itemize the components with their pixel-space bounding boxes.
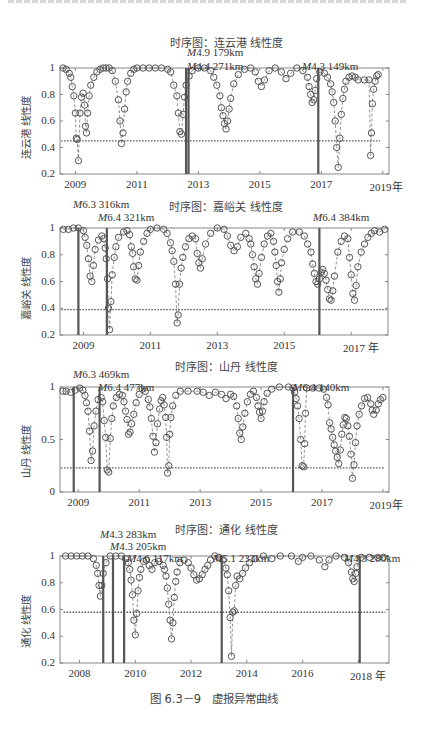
y-tick-label: 0.4 <box>31 629 55 641</box>
x-tick-label: 2008 <box>69 667 91 679</box>
x-tick-label: 2016 <box>292 667 314 679</box>
earthquake-label: M4.3 283km <box>100 528 156 540</box>
earthquake-label: M4.3 280km <box>344 552 400 564</box>
y-tick-label: 0.8 <box>31 576 55 588</box>
plot-area <box>0 0 428 731</box>
x-tick-label: 2010 <box>124 667 146 679</box>
x-tick-label: 2012 <box>180 667 202 679</box>
plot-frame <box>60 556 389 663</box>
y-axis-label: 通化 线性度 <box>18 594 33 647</box>
x-tick-label: 2014 <box>236 667 258 679</box>
figure-caption: 图 6.3－9 虚报异常曲线 <box>150 690 278 706</box>
earthquake-label: M4.6 117km <box>127 552 183 564</box>
y-tick-label: 0.6 <box>31 603 55 615</box>
y-tick-label: 0.2 <box>31 656 55 668</box>
y-tick-label: 1 <box>31 549 55 561</box>
earthquake-label: M5.1 233km <box>213 552 269 564</box>
x-tick-label: 2018 年 <box>350 667 386 683</box>
earthquake-label: M4.3 205km <box>110 540 166 552</box>
